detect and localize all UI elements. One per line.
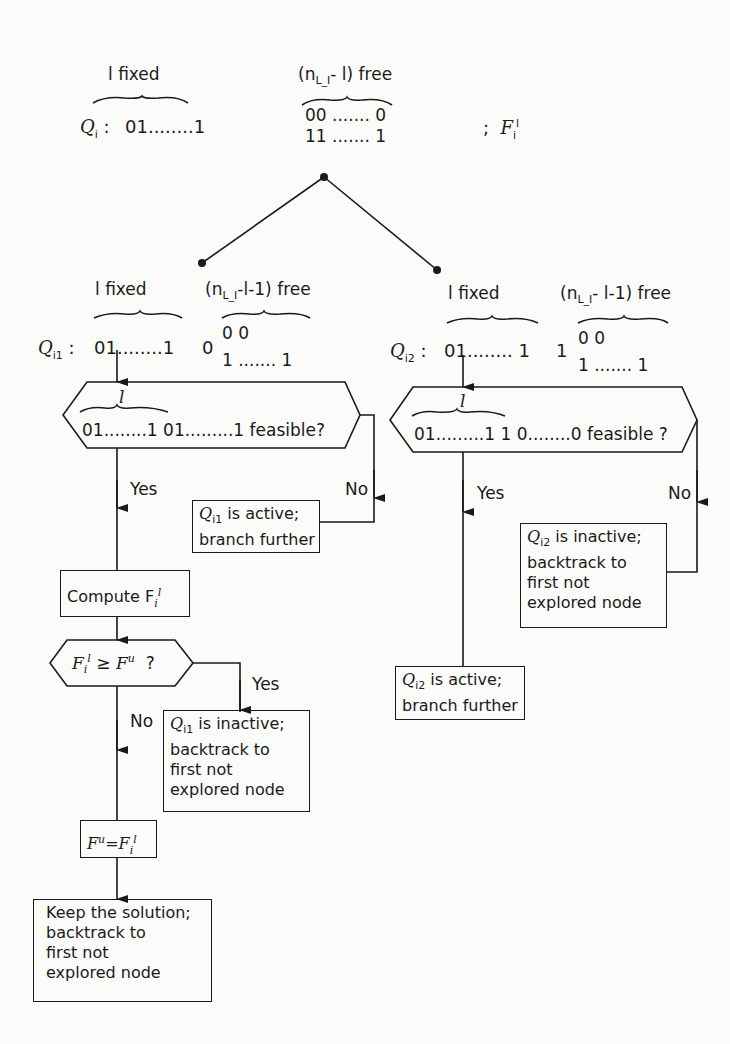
left-fixed-label: l fixed [95,281,147,298]
branch-and-bound-flowchart: l fixed (nL_I- l) free Qi : 01........1 … [0,0,730,1044]
right-feasibility-text: 01.........1 1 0........0 feasible ? [414,426,668,443]
left-inactive-box: Qi1 is inactive; backtrack to first not … [163,710,310,812]
right-free-label: (nL_I- l-1) free [560,285,671,305]
bound-yes-connector [193,663,240,712]
right-fixed-bits: 01........ 1 [444,342,530,360]
root-bound-label: ; Fil [483,118,519,141]
right-node-label: Qi2 : [390,342,427,364]
tree-node-left [198,259,206,267]
brace-right-feasibility [412,409,505,416]
bound-no-label: No [130,713,153,730]
update-upper-bound-box: Fu=Fil [80,820,157,858]
right-free-bits-bottom: 1 ....... 1 [578,357,648,374]
right-fixed-label: l fixed [448,285,500,302]
root-fixed-label: l fixed [108,66,160,83]
right-no-label: No [668,485,691,502]
left-no-label: No [345,481,368,498]
left-feasibility-text: 01........1 01.........1 feasible? [82,422,325,439]
bound-check-text: Fil ≥ Fu ? [72,653,155,675]
root-free-bits-bottom: 11 ....... 1 [305,128,386,145]
brace-fixed-left [94,311,182,318]
connector-lines [0,0,730,1044]
left-free-bits-top: 0 0 [222,325,249,342]
right-extra-bit: 1 [556,342,567,360]
keep-solution-box: Keep the solution; backtrack to first no… [33,899,212,1002]
brace-free-right [578,316,668,323]
left-fixed-bits: 01........1 [94,339,174,357]
left-extra-bit: 0 [202,339,213,357]
left-yes-label: Yes [130,481,157,498]
tree-node-root [320,173,328,181]
brace-fixed-right [447,316,538,323]
left-feasibility-brace-label: l [119,389,124,406]
brace-free-left [222,311,310,318]
root-node-label: Qi : [80,118,110,140]
left-free-label: (nL_I-l-1) free [205,281,311,301]
tree-edge-right [324,177,437,270]
compute-bound-box: Compute Fil [60,570,190,617]
right-active-box: Qi2 is active; branch further [395,666,525,720]
brace-left-feasibility [80,405,168,412]
root-free-bits-top: 00 ....... 0 [305,107,386,124]
left-node-label: Qi1 : [38,339,75,361]
tree-node-right [433,266,441,274]
brace-free-root [302,97,392,105]
root-fixed-bits: 01........1 [125,118,205,136]
left-active-box: Qi1 is active; branch further [192,500,320,553]
left-free-bits-bottom: 1 ....... 1 [222,352,292,369]
right-feasibility-brace-label: l [460,393,465,410]
right-free-bits-top: 0 0 [578,330,605,347]
root-free-label: (nL_I- l) free [298,66,392,86]
bound-yes-label: Yes [252,676,279,693]
right-yes-label: Yes [477,485,504,502]
brace-fixed-root [93,96,188,103]
tree-edge-left [202,177,324,263]
right-inactive-box: Qi2 is inactive; backtrack to first not … [520,523,667,628]
left-no-connector [320,415,374,522]
